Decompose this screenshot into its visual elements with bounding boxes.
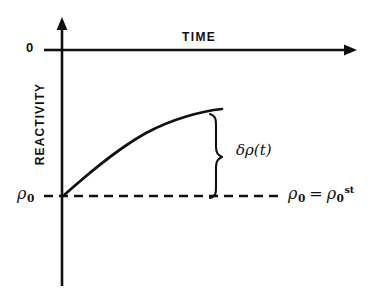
- equals-sign: =: [305, 184, 326, 203]
- baseline-left-label: ρ0: [17, 186, 34, 204]
- reactivity-curve: [63, 109, 222, 196]
- rho-subscript-2: 0: [336, 192, 344, 204]
- delta-rho-brace-icon: [210, 114, 222, 198]
- rho-symbol-2: ρ: [327, 184, 336, 203]
- time-argument: (t): [254, 141, 272, 159]
- rho-symbol: ρ: [288, 184, 297, 203]
- rho-superscript-st: st: [344, 184, 354, 195]
- delta-symbol: δ: [236, 141, 245, 159]
- steady-state-equation-label: ρ0=ρ0st: [288, 185, 354, 204]
- y-axis-arrow-icon: [57, 17, 68, 30]
- rho-subscript: 0: [26, 192, 34, 204]
- rho-symbol: ρ: [245, 141, 254, 159]
- x-axis-label: TIME: [182, 31, 216, 43]
- x-axis-arrow-icon: [344, 44, 357, 55]
- reactivity-vs-time-figure: 0 TIME REACTIVITY ρ0 δρ(t) ρ0=ρ0st: [0, 0, 374, 303]
- delta-rho-label: δρ(t): [236, 143, 272, 158]
- figure-canvas: [0, 0, 374, 303]
- rho-symbol: ρ: [17, 184, 26, 203]
- y-axis-label: REACTIVITY: [34, 74, 46, 174]
- origin-label: 0: [26, 41, 33, 54]
